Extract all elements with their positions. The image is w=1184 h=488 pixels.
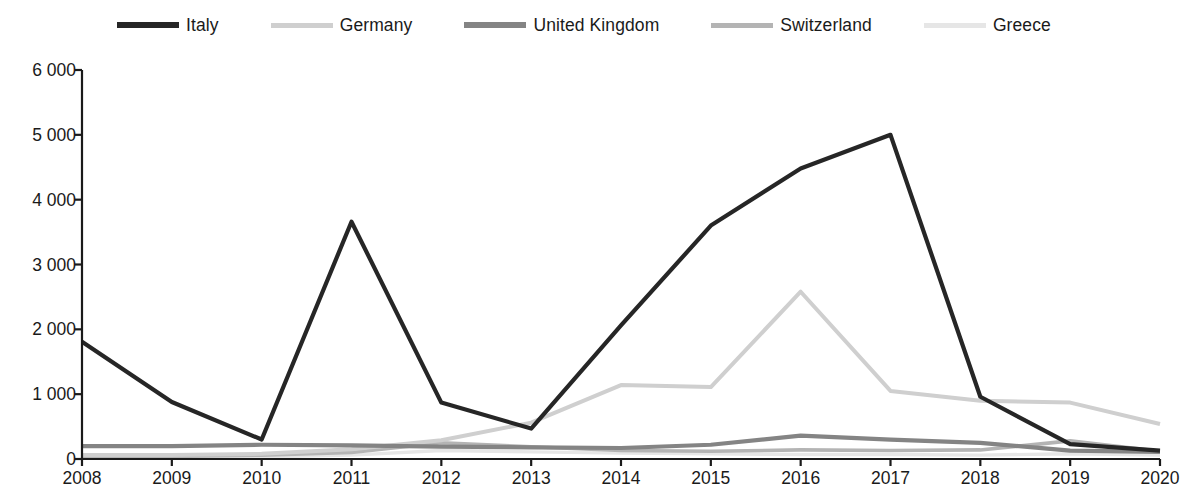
legend-swatch-icon — [271, 23, 333, 28]
x-axis-tick-label: 2018 — [945, 469, 1015, 488]
x-axis-tick-label: 2008 — [47, 469, 117, 488]
x-axis-tick-label: 2020 — [1125, 469, 1184, 488]
legend-swatch-icon — [117, 22, 179, 28]
legend-label: Italy — [186, 16, 219, 34]
plot-area: 6 0005 0004 0003 0002 0001 0000 20082009… — [0, 46, 1168, 483]
legend-item-germany[interactable]: Germany — [271, 16, 413, 34]
chart-legend: ItalyGermanyUnited KingdomSwitzerlandGre… — [0, 8, 1168, 42]
legend-label: United Kingdom — [533, 16, 659, 34]
legend-item-greece[interactable]: Greece — [924, 16, 1051, 34]
x-axis-tick-label: 2010 — [227, 469, 297, 488]
x-axis-labels: 2008200920102011201220132014201520162017… — [0, 46, 1168, 483]
x-axis-tick-label: 2013 — [496, 469, 566, 488]
legend-item-switzerland[interactable]: Switzerland — [711, 16, 872, 34]
legend-item-italy[interactable]: Italy — [117, 16, 219, 34]
legend-label: Switzerland — [780, 16, 872, 34]
legend-item-united-kingdom[interactable]: United Kingdom — [464, 16, 659, 34]
x-axis-tick-label: 2014 — [586, 469, 656, 488]
x-axis-tick-label: 2019 — [1035, 469, 1105, 488]
x-axis-tick-label: 2012 — [406, 469, 476, 488]
legend-swatch-icon — [924, 23, 986, 28]
x-axis-tick-label: 2017 — [856, 469, 926, 488]
legend-label: Greece — [993, 16, 1051, 34]
legend-swatch-icon — [464, 22, 526, 28]
x-axis-tick-label: 2016 — [766, 469, 836, 488]
legend-swatch-icon — [711, 23, 773, 28]
legend-label: Germany — [340, 16, 413, 34]
x-axis-tick-label: 2009 — [137, 469, 207, 488]
x-axis-tick-label: 2011 — [317, 469, 387, 488]
x-axis-tick-label: 2015 — [676, 469, 746, 488]
